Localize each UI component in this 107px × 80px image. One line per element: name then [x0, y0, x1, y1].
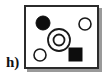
marker-concentric-rings-outer [48, 29, 70, 51]
shape-canvas [26, 7, 97, 67]
marker-open-circle-top-right [79, 18, 91, 30]
plot-frame [24, 5, 99, 69]
marker-filled-circle-top-left [36, 16, 50, 30]
marker-filled-square-bottom-right [69, 48, 82, 61]
marker-open-circle-bottom-left [34, 49, 46, 61]
marker-concentric-rings-inner [54, 35, 65, 46]
panel-label: h) [6, 55, 19, 70]
figure-panel: h) [0, 0, 107, 80]
